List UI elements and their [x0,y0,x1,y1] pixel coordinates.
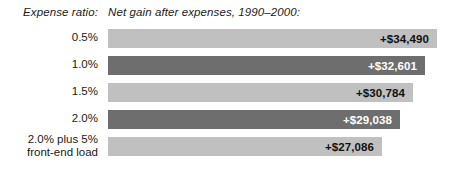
chart-row: 1.0% +$32,601 [0,55,453,82]
bar-value-label: +$30,784 [356,87,413,99]
value-bar: +$29,038 [108,110,400,129]
expense-ratio-bar-chart: Expense ratio: Net gain after expenses, … [0,0,453,179]
chart-row: 1.5% +$30,784 [0,82,453,109]
expense-ratio-header-label: Expense ratio: [0,6,98,18]
chart-rows: 0.5% +$34,490 1.0% +$32,601 1.5% +$30,78… [0,28,453,163]
row-category-label: 1.0% [0,58,98,71]
bar-value-label: +$29,038 [343,114,400,126]
value-bar: +$30,784 [108,83,413,102]
chart-row: 0.5% +$34,490 [0,28,453,55]
row-category-label: 2.0% [0,112,98,125]
value-bar: +$32,601 [108,56,425,75]
chart-header: Expense ratio: Net gain after expenses, … [0,6,453,22]
bar-value-label: +$27,086 [325,141,382,153]
row-category-label-line1: 2.0% plus 5% [28,133,98,145]
net-gain-header-label: Net gain after expenses, 1990–2000: [108,6,300,18]
bar-value-label: +$34,490 [380,33,437,45]
bar-value-label: +$32,601 [368,60,425,72]
row-category-label-line2: front-end load [0,146,98,159]
row-category-label: 2.0% plus 5% front-end load [0,133,98,159]
value-bar: +$34,490 [108,29,437,48]
row-category-label: 0.5% [0,31,98,44]
chart-row: 2.0% plus 5% front-end load +$27,086 [0,136,453,163]
value-bar: +$27,086 [108,137,382,156]
chart-row: 2.0% +$29,038 [0,109,453,136]
row-category-label: 1.5% [0,85,98,98]
